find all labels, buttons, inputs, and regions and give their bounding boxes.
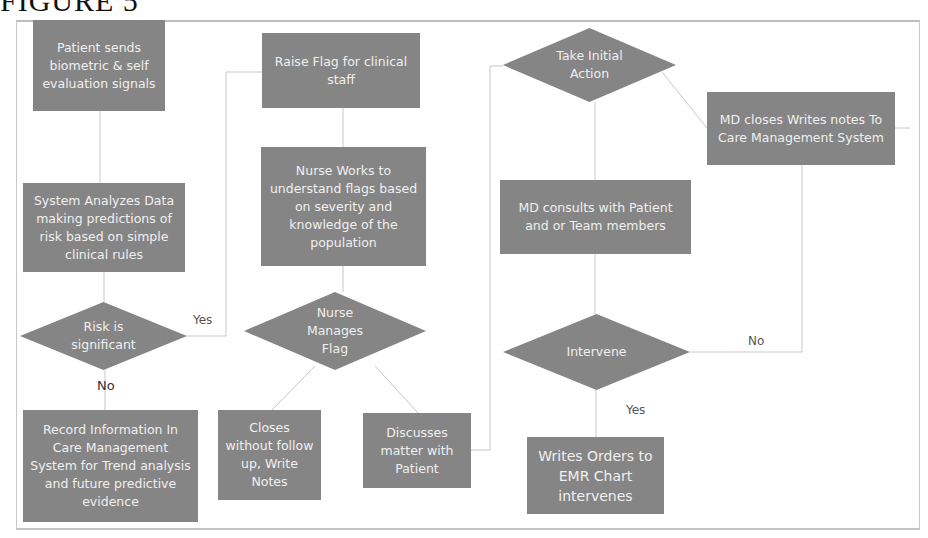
node-record-information: Record Information In Care Management Sy… bbox=[23, 410, 198, 522]
node-label: MD closes Writes notes To Care Managemen… bbox=[713, 111, 889, 147]
decision-label: Take Initial Action bbox=[551, 47, 628, 83]
node-closes-without-follow-up: Closes without follow up, Write Notes bbox=[218, 410, 321, 500]
node-writes-orders: Writes Orders to EMR Chart intervenes bbox=[527, 437, 664, 514]
node-label: System Analyzes Data making predictions … bbox=[29, 192, 179, 264]
decision-label: Nurse Manages Flag bbox=[304, 304, 366, 358]
node-label: Patient sends biometric & self evaluatio… bbox=[39, 39, 159, 93]
decision-take-initial-action: Take Initial Action bbox=[503, 28, 676, 102]
node-discusses-matter: Discusses matter with Patient bbox=[363, 413, 471, 488]
decision-risk-significant: Risk is significant bbox=[20, 302, 187, 370]
label-intervene-yes: Yes bbox=[626, 403, 645, 417]
node-label: Discusses matter with Patient bbox=[369, 424, 465, 478]
label-intervene-no: No bbox=[748, 334, 764, 348]
node-nurse-works: Nurse Works to understand flags based on… bbox=[261, 147, 426, 266]
label-risk-no: No bbox=[97, 378, 115, 393]
decision-nurse-manages-flag: Nurse Manages Flag bbox=[244, 292, 426, 370]
node-raise-flag: Raise Flag for clinical staff bbox=[262, 33, 420, 108]
node-label: MD consults with Patient and or Team mem… bbox=[506, 199, 685, 235]
decision-intervene: Intervene bbox=[503, 314, 690, 390]
node-md-consults: MD consults with Patient and or Team mem… bbox=[500, 180, 691, 254]
node-label: Closes without follow up, Write Notes bbox=[224, 419, 315, 491]
decision-label: Intervene bbox=[566, 343, 626, 361]
label-risk-yes: Yes bbox=[193, 313, 212, 327]
node-md-closes: MD closes Writes notes To Care Managemen… bbox=[707, 92, 895, 165]
node-patient-sends: Patient sends biometric & self evaluatio… bbox=[33, 20, 165, 111]
node-label: Record Information In Care Management Sy… bbox=[29, 421, 192, 511]
node-label: Writes Orders to EMR Chart intervenes bbox=[533, 446, 658, 506]
decision-label: Risk is significant bbox=[60, 318, 147, 354]
node-label: Nurse Works to understand flags based on… bbox=[267, 162, 420, 252]
node-label: Raise Flag for clinical staff bbox=[268, 53, 414, 89]
node-system-analyzes: System Analyzes Data making predictions … bbox=[23, 183, 185, 272]
